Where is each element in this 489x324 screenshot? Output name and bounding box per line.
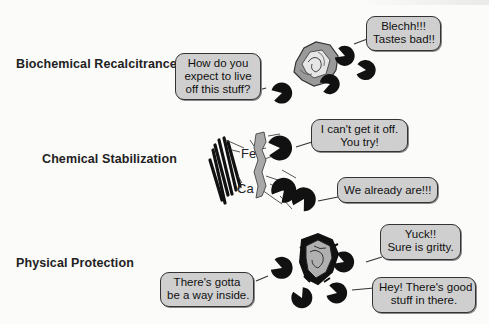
row-label-physical-protection: Physical Protection	[16, 256, 134, 270]
speech-bubble-cant-get-it-off: I can't get it off. You try!	[311, 119, 408, 152]
speech-bubble-hey-good-stuff: Hey! There's good stuff in there.	[372, 277, 476, 313]
aggregate-clump-icon	[300, 234, 338, 284]
speech-bubble-we-already-are: We already are!!!	[337, 177, 438, 203]
mineral-layers-icon	[210, 138, 240, 203]
row-label-biochemical-recalcitrance: Biochemical Recalcitrance	[16, 57, 177, 71]
row-label-chemical-stabilization: Chemical Stabilization	[42, 152, 177, 166]
ca-label: Ca	[237, 181, 254, 196]
speech-bubble-theres-gotta-be-a-way: There's gotta be a way inside.	[160, 272, 254, 307]
speech-bubble-how-do-you-expect: How do you expect to live off this stuff…	[175, 53, 261, 100]
speech-bubble-yuck-gritty: Yuck!! Sure is gritty.	[380, 224, 461, 260]
organic-molecule-icon	[254, 132, 266, 198]
speech-bubble-blechh: Blechh!!! Tastes bad!!	[366, 16, 441, 51]
